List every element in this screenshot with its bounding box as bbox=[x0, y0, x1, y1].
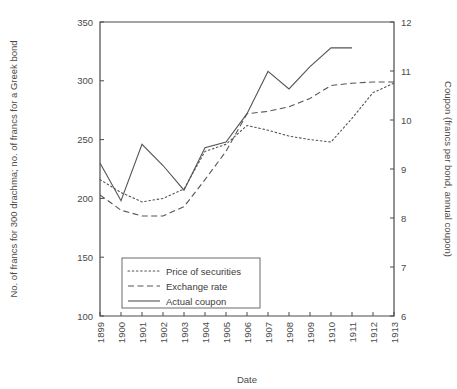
y2-axis-tick-label: 8 bbox=[401, 213, 406, 224]
series-line-price-of-securities bbox=[100, 83, 394, 202]
legend-label: Exchange rate bbox=[166, 281, 227, 292]
legend-label: Actual coupon bbox=[166, 296, 226, 307]
x-axis-tick-label: 1905 bbox=[221, 322, 232, 343]
legend-label: Price of securities bbox=[166, 266, 241, 277]
y-axis-tick-label: 100 bbox=[77, 311, 93, 322]
x-axis-tick-label: 1908 bbox=[284, 322, 295, 343]
y-axis-tick-label: 350 bbox=[77, 17, 93, 28]
y2-axis-tick-label: 12 bbox=[401, 17, 412, 28]
x-axis-tick-label: 1903 bbox=[179, 322, 190, 343]
x-axis-tick-label: 1899 bbox=[95, 322, 106, 343]
chart-container: 1001502002503003506789101112189919001901… bbox=[0, 0, 457, 389]
series-line-actual-coupon bbox=[100, 48, 352, 201]
y-axis-tick-label: 300 bbox=[77, 75, 93, 86]
x-axis-tick-label: 1901 bbox=[137, 322, 148, 343]
series-line-exchange-rate bbox=[100, 82, 394, 216]
x-axis-tick-label: 1911 bbox=[347, 322, 358, 342]
y-axis-tick-label: 200 bbox=[77, 193, 93, 204]
x-axis-tick-label: 1912 bbox=[368, 322, 379, 343]
x-axis-tick-label: 1909 bbox=[305, 322, 316, 343]
y2-axis-title: Coupon (francs per bond, annual coupon) bbox=[443, 81, 454, 257]
x-axis-tick-label: 1910 bbox=[326, 322, 337, 343]
y-axis-tick-label: 250 bbox=[77, 134, 93, 145]
x-axis-tick-label: 1904 bbox=[200, 322, 211, 343]
y2-axis-tick-label: 7 bbox=[401, 262, 406, 273]
x-axis-tick-label: 1902 bbox=[158, 322, 169, 343]
y2-axis-tick-label: 10 bbox=[401, 115, 412, 126]
y-axis-title: No. of francs for 300 drachma; no. of fr… bbox=[8, 40, 19, 297]
y2-axis-tick-label: 11 bbox=[401, 66, 411, 77]
x-axis-title: Date bbox=[237, 374, 257, 385]
x-axis-tick-label: 1913 bbox=[389, 322, 400, 343]
y2-axis-tick-label: 9 bbox=[401, 164, 406, 175]
x-axis-tick-label: 1900 bbox=[116, 322, 127, 343]
line-chart: 1001502002503003506789101112189919001901… bbox=[0, 0, 457, 389]
y2-axis-tick-label: 6 bbox=[401, 311, 406, 322]
y-axis-tick-label: 150 bbox=[77, 252, 93, 263]
x-axis-tick-label: 1907 bbox=[263, 322, 274, 343]
x-axis-tick-label: 1906 bbox=[242, 322, 253, 343]
